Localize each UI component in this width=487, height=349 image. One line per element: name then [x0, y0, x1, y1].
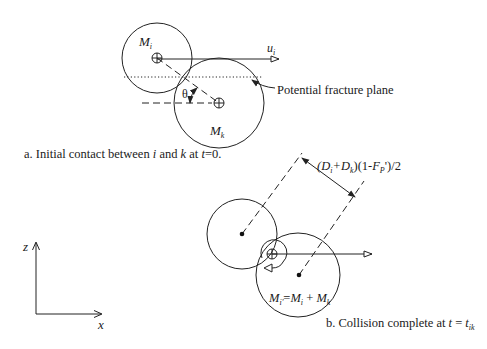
collision-diagram: Mi Mk ui θ Potential fracture plane a. I… — [0, 0, 487, 349]
center-line — [157, 58, 219, 103]
angle-theta-label: θ — [182, 87, 188, 101]
angle-arc — [190, 88, 197, 103]
center-of-mass-marker — [267, 249, 277, 259]
fracture-plane-label: Potential fracture plane — [277, 83, 394, 97]
rotation-arrowhead-icon — [264, 264, 272, 272]
mass-i-label: Mi — [138, 34, 152, 51]
panel-b: (Di+Dk)(1-FP')/2 Mi'=Mi + Mk b. Collisio… — [207, 153, 475, 332]
x-axis-label: x — [97, 317, 104, 332]
extension-line-left — [242, 153, 302, 234]
merged-mass-label: Mi'=Mi + Mk — [268, 291, 331, 307]
center-marker-k — [214, 98, 224, 108]
distance-label: (Di+Dk)(1-FP')/2 — [317, 159, 401, 175]
panel-a-caption: a. Initial contact between i and k at t=… — [24, 147, 221, 161]
center-dot-i — [240, 232, 245, 237]
coordinate-axes: z x — [22, 239, 104, 332]
center-dot-merged — [297, 273, 302, 278]
panel-b-caption: b. Collision complete at t = tik — [326, 316, 475, 332]
z-axis-label: z — [22, 239, 28, 254]
mass-k-label: Mk — [209, 123, 225, 140]
panel-a: Mi Mk ui θ Potential fracture plane a. I… — [24, 23, 394, 161]
extension-line-right — [299, 181, 364, 275]
velocity-label: ui — [267, 41, 275, 57]
center-marker-i — [152, 53, 162, 63]
fracture-leader-arrow — [252, 80, 275, 88]
